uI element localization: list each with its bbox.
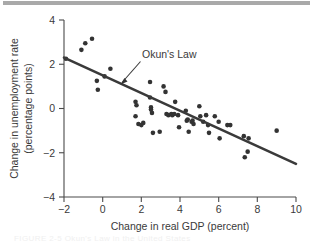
y-tick-label-0: 0	[49, 102, 55, 114]
scatter-plot: 4 2 0 −2 −4 −2 0 2 4 6 8 10	[0, 0, 313, 245]
data-point	[148, 80, 153, 85]
data-point	[83, 41, 88, 46]
data-point	[134, 103, 139, 108]
data-point	[242, 155, 247, 160]
data-point	[216, 119, 221, 124]
data-point	[217, 136, 222, 141]
figure-caption-faint: FIGURE 2-5 Okun's Law in the United Stat…	[14, 234, 274, 243]
data-point	[96, 87, 101, 92]
x-tick-label-0: 0	[100, 203, 106, 215]
data-point	[185, 117, 190, 122]
data-point	[191, 122, 196, 127]
y-tick-label-2: 2	[49, 58, 55, 70]
data-point	[163, 90, 168, 95]
okuns-law-arrow	[121, 62, 141, 85]
okuns-law-label: Okun's Law	[142, 48, 197, 60]
data-point	[90, 37, 95, 42]
x-tick-label-4: 4	[177, 203, 183, 215]
axes	[64, 20, 296, 197]
x-tick-label-2: 2	[138, 203, 144, 215]
data-point	[161, 84, 166, 89]
y-axis-ticks: 4 2 0 −2 −4	[43, 14, 64, 203]
x-tick-label-10: 10	[290, 203, 302, 215]
data-point	[173, 100, 178, 105]
data-point	[228, 123, 233, 128]
data-point	[245, 149, 250, 154]
y-tick-label-4: 4	[49, 14, 55, 26]
data-point	[150, 111, 155, 116]
data-point	[133, 114, 138, 119]
data-point	[177, 125, 182, 130]
x-axis-title: Change in real GDP (percent)	[111, 220, 250, 232]
data-point	[197, 104, 202, 109]
data-point	[172, 112, 177, 117]
okuns-law-trendline	[64, 58, 296, 164]
data-point	[151, 131, 156, 136]
data-point	[213, 114, 218, 119]
x-tick-label-6: 6	[216, 203, 222, 215]
data-point	[207, 131, 212, 136]
data-point	[204, 113, 209, 118]
data-point	[186, 129, 191, 134]
y-axis-title-line2: (percentage points)	[22, 63, 34, 153]
data-point	[79, 48, 84, 53]
y-tick-label-neg4: −4	[43, 191, 55, 203]
data-point	[157, 129, 162, 134]
data-point	[108, 66, 113, 71]
okuns-law-figure: 4 2 0 −2 −4 −2 0 2 4 6 8 10	[0, 0, 313, 245]
data-point	[176, 113, 181, 118]
data-point	[141, 121, 146, 126]
arrow-head	[121, 78, 128, 85]
y-tick-label-neg2: −2	[43, 147, 55, 159]
data-point	[95, 79, 100, 84]
y-axis-title-line1: Change in unemployment rate	[8, 38, 20, 179]
data-point	[274, 128, 279, 133]
x-axis-ticks: −2 0 2 4 6 8 10	[58, 197, 302, 215]
x-tick-label-8: 8	[254, 203, 260, 215]
x-tick-label-neg2: −2	[58, 203, 70, 215]
